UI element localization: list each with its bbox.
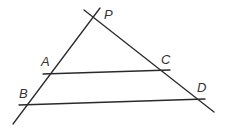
line-a-c — [43, 70, 170, 74]
line-p-b — [13, 8, 100, 124]
label-c: C — [161, 52, 171, 67]
label-p: P — [104, 7, 113, 22]
geometry-diagram: P A B C D — [0, 0, 227, 136]
label-b: B — [19, 86, 28, 101]
line-b-d — [19, 99, 205, 105]
line-p-d — [84, 10, 214, 112]
label-a: A — [40, 54, 50, 69]
label-d: D — [197, 80, 206, 95]
